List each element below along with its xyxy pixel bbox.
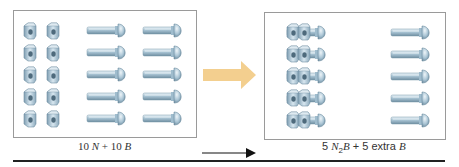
bolt-icon (143, 68, 185, 82)
nut-icon (23, 45, 37, 62)
nut-icon (46, 23, 60, 40)
products-panel (264, 12, 446, 140)
nut-icon (297, 90, 311, 107)
bolt-icon (143, 46, 185, 60)
bolt-icon (391, 114, 433, 128)
reaction-arrow-icon (203, 61, 256, 89)
bolt-icon (143, 24, 185, 38)
nut-icon (23, 67, 37, 84)
bolt-icon (143, 112, 185, 126)
nut-icon (297, 112, 311, 129)
bolt-icon (87, 90, 129, 104)
bolt-icon (391, 70, 433, 84)
bolt-icon (143, 90, 185, 104)
bolt-icon (391, 26, 433, 40)
reactants-label: 10 N + 10 B (78, 140, 131, 152)
nut-icon (297, 24, 311, 41)
bolt-icon (87, 112, 129, 126)
products-label: 5 N2B + 5 extra B (322, 140, 406, 155)
nut-icon (46, 111, 60, 128)
nut-icon (23, 89, 37, 106)
nut-icon (297, 68, 311, 85)
bolt-icon (87, 46, 129, 60)
bottom-divider (13, 160, 445, 162)
bolt-icon (87, 68, 129, 82)
reactants-panel (13, 10, 197, 138)
nut-icon (23, 23, 37, 40)
nut-icon (46, 67, 60, 84)
nut-icon (23, 111, 37, 128)
yields-arrow-icon (202, 147, 256, 159)
nut-icon (46, 45, 60, 62)
nut-icon (297, 46, 311, 63)
bolt-icon (87, 24, 129, 38)
bolt-icon (391, 48, 433, 62)
bolt-icon (391, 92, 433, 106)
nut-icon (46, 89, 60, 106)
